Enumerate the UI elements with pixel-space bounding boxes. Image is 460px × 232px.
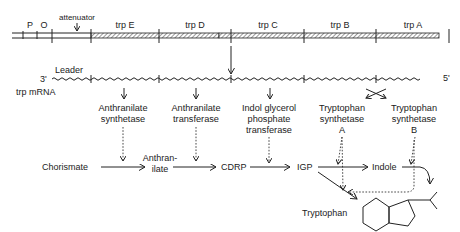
svg-text:transferase: transferase bbox=[246, 125, 292, 135]
gene-label-trpA: trp A bbox=[404, 20, 423, 30]
metabolite-igp: IGP bbox=[297, 162, 313, 172]
metabolite-cdrp: CDRP bbox=[221, 162, 247, 172]
enzyme-tryptophan-synthetase-a: Tryptophan synthetase A bbox=[319, 103, 365, 135]
svg-text:Indol glycerol: Indol glycerol bbox=[242, 103, 296, 113]
svg-text:Tryptophan: Tryptophan bbox=[391, 103, 437, 113]
enzyme-anthranilate-synthetase: Anthranilate synthetase bbox=[98, 103, 147, 124]
svg-text:Anthranilate: Anthranilate bbox=[171, 103, 220, 113]
metabolite-chorismate: Chorismate bbox=[42, 162, 88, 172]
catalysis-arrow-icon bbox=[338, 137, 342, 164]
svg-text:Anthranilate: Anthranilate bbox=[98, 103, 147, 113]
metabolite-indole: Indole bbox=[372, 162, 397, 172]
leader-label: Leader bbox=[55, 65, 83, 75]
operator-label: O bbox=[40, 20, 47, 30]
catalysis-arrow-icon bbox=[342, 137, 343, 190]
trp-mrna-strand bbox=[52, 75, 420, 83]
operon-dna-bar bbox=[12, 29, 449, 43]
svg-text:A: A bbox=[339, 125, 346, 135]
trp-mrna-label: trp mRNA bbox=[16, 87, 56, 97]
enzyme-tryptophan-synthetase-b: Tryptophan synthetase B bbox=[391, 103, 437, 135]
attenuator-label: attenuator bbox=[59, 13, 95, 22]
svg-text:phosphate: phosphate bbox=[248, 114, 291, 124]
gene-label-trpE: trp E bbox=[115, 20, 134, 30]
gene-label-trpC: trp C bbox=[258, 20, 278, 30]
svg-text:synthetase: synthetase bbox=[392, 114, 436, 124]
metabolite-anthranilate-line1: Anthran- bbox=[143, 153, 178, 163]
gene-label-trpD: trp D bbox=[185, 20, 205, 30]
enzyme-anthranilate-transferase: Anthranilate transferase bbox=[171, 103, 220, 124]
svg-text:synthetase: synthetase bbox=[101, 114, 145, 124]
promoter-label: P bbox=[27, 20, 33, 30]
svg-text:synthetase: synthetase bbox=[320, 114, 364, 124]
trp-operon-diagram: P O attenuator trp E trp D trp C trp B t… bbox=[0, 0, 460, 232]
five-prime-label: 5' bbox=[443, 73, 450, 83]
igp-to-tryptophan-arrow-icon bbox=[318, 172, 357, 199]
metabolite-anthranilate-line2: ilate bbox=[152, 164, 169, 174]
svg-text:B: B bbox=[411, 125, 417, 135]
three-prime-label: 3' bbox=[40, 74, 47, 84]
enzyme-indol-glycerol-phosphate-transferase: Indol glycerol phosphate transferase bbox=[242, 103, 296, 135]
gene-label-trpB: trp B bbox=[330, 20, 349, 30]
gene-trpE-trpD-bar bbox=[91, 33, 219, 38]
metabolite-tryptophan: Tryptophan bbox=[302, 208, 347, 218]
tryptophan-structure-icon bbox=[363, 192, 437, 231]
svg-text:Tryptophan: Tryptophan bbox=[319, 103, 365, 113]
indole-curved-arrow-icon bbox=[402, 167, 430, 184]
gene-trpC-trpA-bar bbox=[219, 33, 439, 38]
svg-text:transferase: transferase bbox=[173, 114, 219, 124]
